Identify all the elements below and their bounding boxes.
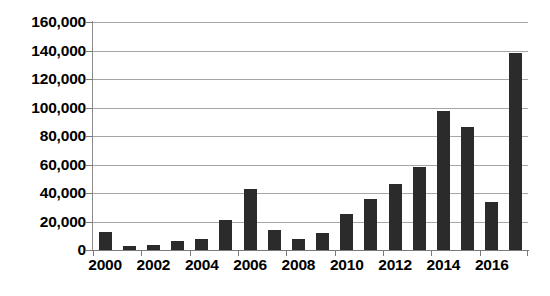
bar <box>219 220 232 250</box>
x-tick-label: 2014 <box>427 256 461 274</box>
bar <box>195 239 208 250</box>
y-tick-label: 60,000 <box>40 156 86 174</box>
bar <box>316 233 329 250</box>
y-tick-label: 100,000 <box>31 99 86 117</box>
y-tick-mark <box>86 108 93 109</box>
bar <box>461 127 474 250</box>
x-tick-label: 2002 <box>137 256 171 274</box>
y-tick-mark <box>86 250 93 251</box>
y-tick-mark <box>86 222 93 223</box>
y-tick-mark <box>86 79 93 80</box>
bar-chart: 020,00040,00060,00080,000100,000120,0001… <box>0 0 550 296</box>
y-tick-label: 20,000 <box>40 213 86 231</box>
bars-layer <box>93 22 528 250</box>
y-tick-mark <box>86 165 93 166</box>
bar <box>99 232 112 250</box>
x-tick-label: 2010 <box>330 256 364 274</box>
bar <box>437 111 450 250</box>
x-tick-label: 2012 <box>378 256 412 274</box>
bar <box>413 167 426 250</box>
y-tick-mark <box>86 22 93 23</box>
bar <box>509 53 522 250</box>
bar <box>244 189 257 250</box>
y-tick-mark <box>86 193 93 194</box>
x-tick-label: 2000 <box>88 256 122 274</box>
bar <box>340 214 353 250</box>
y-tick-mark <box>86 51 93 52</box>
plot-area <box>93 22 528 250</box>
x-tick-label: 2008 <box>282 256 316 274</box>
bar <box>389 184 402 250</box>
y-tick-mark <box>86 136 93 137</box>
y-tick-label: 0 <box>78 241 86 259</box>
y-tick-label: 140,000 <box>31 42 86 60</box>
x-tick-label: 2006 <box>233 256 267 274</box>
bar <box>364 199 377 250</box>
x-axis-labels: 200020022004200620082010201220142016 <box>93 256 529 282</box>
bar <box>171 241 184 250</box>
x-tick-label: 2004 <box>185 256 219 274</box>
bar <box>485 202 498 250</box>
bar <box>292 239 305 250</box>
y-tick-label: 40,000 <box>40 184 86 202</box>
y-tick-label: 120,000 <box>31 70 86 88</box>
y-tick-label: 160,000 <box>31 13 86 31</box>
y-axis-labels: 020,00040,00060,00080,000100,000120,0001… <box>0 0 92 296</box>
bar <box>268 230 281 250</box>
y-tick-label: 80,000 <box>40 127 86 145</box>
x-tick-label: 2016 <box>475 256 509 274</box>
